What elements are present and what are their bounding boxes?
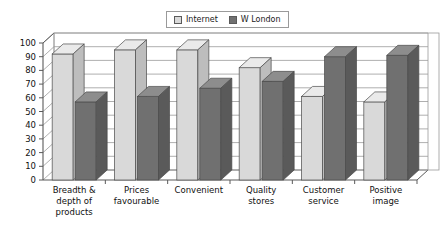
y-tick-label: 0: [31, 175, 36, 185]
y-tick-label: 90: [25, 52, 36, 62]
bar-side-w-london: [221, 78, 232, 180]
y-tick-label: 10: [25, 161, 36, 171]
bar-side-w-london: [408, 45, 419, 180]
bar-chart: Internet W London 0102030405060708090100…: [0, 0, 446, 232]
bar-side-w-london: [159, 86, 170, 180]
y-tick-label: 30: [25, 134, 36, 144]
bar-w-london[interactable]: [138, 96, 159, 180]
x-category-label: Breadth &depth ofproducts: [53, 185, 96, 217]
x-category-label: Positiveimage: [369, 185, 402, 206]
x-category-label: Convenient: [175, 185, 224, 195]
y-tick-label: 40: [25, 120, 36, 130]
chart-canvas: 0102030405060708090100Breadth &depth ofp…: [0, 0, 446, 232]
plot-area: 0102030405060708090100Breadth &depth ofp…: [0, 0, 446, 232]
y-tick-label: 60: [25, 93, 36, 103]
bar-w-london[interactable]: [262, 81, 283, 180]
y-tick-label: 70: [25, 79, 36, 89]
bar-internet[interactable]: [302, 96, 323, 180]
bar-w-london[interactable]: [325, 57, 346, 180]
bar-internet[interactable]: [115, 50, 136, 180]
y-axis-top-depth: [43, 33, 54, 43]
floor-right-depth: [417, 170, 428, 180]
y-tick-label: 100: [20, 38, 36, 48]
y-tick-label: 20: [25, 148, 36, 158]
bar-side-w-london: [346, 47, 357, 180]
bar-internet[interactable]: [239, 68, 260, 180]
x-category-label: Qualitystores: [246, 185, 276, 206]
bar-w-london[interactable]: [200, 88, 221, 180]
bar-w-london[interactable]: [75, 102, 96, 180]
y-tick-label: 80: [25, 65, 36, 75]
bar-w-london[interactable]: [387, 55, 408, 180]
bar-internet[interactable]: [52, 54, 73, 180]
bar-internet[interactable]: [364, 102, 385, 180]
x-category-label: Pricesfavourable: [114, 185, 160, 206]
bar-side-w-london: [96, 92, 107, 180]
y-tick-label: 50: [25, 107, 36, 117]
x-category-label: Customerservice: [303, 185, 345, 206]
bar-internet[interactable]: [177, 50, 198, 180]
bar-side-w-london: [283, 71, 294, 180]
